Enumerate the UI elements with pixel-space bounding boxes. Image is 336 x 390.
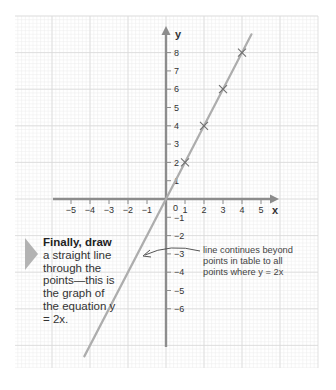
svg-text:−3: −3 <box>174 249 184 259</box>
svg-text:8: 8 <box>174 48 179 58</box>
svg-text:2: 2 <box>174 158 179 168</box>
annotation-text: line continues beyond points in table to… <box>203 245 293 277</box>
svg-text:−2: −2 <box>123 205 133 215</box>
svg-text:−1: −1 <box>174 213 184 223</box>
callout-triangle-icon <box>25 238 38 270</box>
svg-text:3: 3 <box>174 139 179 149</box>
svg-text:4: 4 <box>239 205 244 215</box>
callout-bold: Finally, draw <box>43 236 112 248</box>
svg-text:−6: −6 <box>174 304 184 314</box>
svg-text:0: 0 <box>173 203 178 213</box>
svg-text:−4: −4 <box>85 205 95 215</box>
svg-text:5: 5 <box>174 103 179 113</box>
svg-text:x: x <box>272 204 279 216</box>
annotation-arrow <box>143 248 200 257</box>
svg-text:3: 3 <box>220 205 225 215</box>
svg-text:5: 5 <box>258 205 263 215</box>
svg-text:−5: −5 <box>66 205 76 215</box>
callout-body: a straight line through the points—this … <box>43 249 115 325</box>
callout-text: Finally, draw a straight line through th… <box>43 236 123 326</box>
svg-text:−2: −2 <box>174 231 184 241</box>
svg-text:y: y <box>175 28 182 40</box>
svg-text:6: 6 <box>174 84 179 94</box>
svg-text:−5: −5 <box>174 286 184 296</box>
svg-text:4: 4 <box>174 121 179 131</box>
svg-text:−3: −3 <box>104 205 114 215</box>
svg-text:2: 2 <box>201 205 206 215</box>
svg-text:−1: −1 <box>142 205 152 215</box>
svg-text:−4: −4 <box>174 267 184 277</box>
svg-text:7: 7 <box>174 66 179 76</box>
graph-canvas: xy0 −5−4−3−2−112345−6−5−4−3−2−112345678 <box>0 0 336 390</box>
